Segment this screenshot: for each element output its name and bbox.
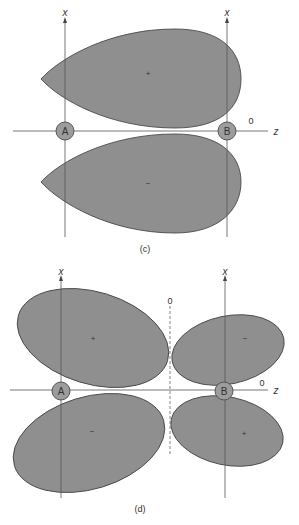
nucleus-b-label: B: [224, 126, 231, 137]
sign-upper-right: −: [243, 334, 248, 343]
nucleus-a-label: A: [62, 126, 69, 137]
node-label-plane: 0: [167, 296, 172, 306]
caption-d: (d): [135, 504, 146, 514]
lobe-upper-positive: [41, 29, 241, 128]
sign-lower-left: −: [90, 427, 95, 436]
sign-minus: −: [146, 179, 151, 188]
axis-label-x-b: x: [224, 7, 231, 18]
axis-label-x-a: x: [62, 7, 69, 18]
axis-label-x-b: x: [222, 266, 229, 277]
sign-plus: +: [146, 69, 151, 78]
nucleus-b-label: B: [221, 386, 228, 397]
lobe-lower-negative: [41, 134, 241, 233]
panel-d: A B x x z 0 0 + − − + (d): [1, 266, 291, 514]
caption-c: (c): [140, 244, 151, 254]
axis-label-z: z: [273, 126, 279, 137]
sign-upper-left: +: [91, 334, 96, 343]
lobe-upper-right-negative: [165, 305, 291, 395]
node-label-axis: 0: [259, 378, 264, 388]
panel-c: A B x x z 0 + − (c): [13, 7, 279, 254]
node-label: 0: [248, 116, 253, 126]
orbital-diagram: A B x x z 0 + − (c) A B x x z 0 0 +: [0, 0, 299, 525]
sign-lower-right: +: [242, 429, 247, 438]
nucleus-a-label: A: [58, 386, 65, 397]
axis-label-x-a: x: [58, 266, 65, 277]
axis-label-z: z: [273, 385, 279, 396]
lobe-lower-left-negative: [1, 376, 177, 510]
